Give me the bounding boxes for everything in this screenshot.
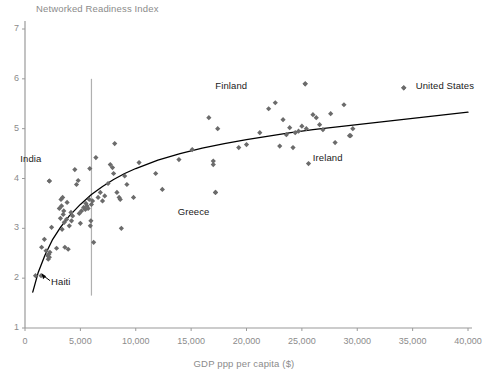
data-point-marker [88,223,93,228]
annotated-data-point-marker [303,81,308,86]
data-point-marker [136,160,141,165]
point-label-india: India [20,153,41,164]
data-point-marker [341,102,346,107]
data-point-marker [61,208,66,213]
data-point-marker [88,218,93,223]
data-point-marker [176,157,181,162]
data-point-marker [95,195,100,200]
annotated-data-point-marker [401,85,406,90]
x-axis-tick-label: 40,000 [438,336,488,346]
data-point-marker [49,225,54,230]
y-axis-tick-label: 7 [3,23,19,33]
trend-line [33,112,468,292]
y-axis-tick-label: 2 [3,272,19,282]
data-point-marker [111,171,116,176]
data-point-marker [102,193,107,198]
data-point-marker [236,145,241,150]
data-point-marker [131,195,136,200]
data-point-marker [328,111,333,116]
x-axis-tick-label: 10,000 [106,336,166,346]
data-point-marker [266,106,271,111]
data-point-marker [54,246,59,251]
x-axis-tick-label: 35,000 [383,336,443,346]
point-label-haiti: Haiti [51,276,71,287]
y-axis-tick-label: 1 [3,322,19,332]
data-point-marker [317,122,322,127]
point-label-finland: Finland [215,80,247,91]
annotated-data-point-marker [213,190,218,195]
data-point-marker [287,125,292,130]
data-point-marker [98,190,103,195]
data-point-marker [64,200,69,205]
scatter-plot-canvas [0,0,488,380]
data-point-marker [72,167,77,172]
annotated-data-point-marker [47,178,52,183]
data-point-marker [277,144,282,149]
data-point-marker [314,115,319,120]
data-point-marker [153,171,158,176]
data-point-marker [42,237,47,242]
x-axis-tick-label: 30,000 [327,336,387,346]
x-axis-tick-label: 25,000 [272,336,332,346]
data-point-marker [215,126,220,131]
data-point-marker [119,226,124,231]
data-point-marker [160,187,165,192]
data-point-marker [333,140,338,145]
data-point-marker [67,223,72,228]
data-point-marker [290,145,295,150]
data-point-marker [273,100,278,105]
x-axis-tick-label: 20,000 [217,336,277,346]
data-point-marker [78,221,83,226]
data-point-marker [350,126,355,131]
data-point-marker [100,198,105,203]
chart-container: Networked Readiness Index 1234567 05,000… [0,0,488,380]
x-axis-tick-label: 15,000 [161,336,221,346]
y-axis-tick-label: 6 [3,73,19,83]
y-axis-tick-label: 4 [3,173,19,183]
data-point-marker [114,190,119,195]
point-label-united-states: United States [416,80,474,91]
data-point-marker [257,130,262,135]
data-point-marker [211,162,216,167]
y-axis-tick-label: 5 [3,123,19,133]
data-point-marker [299,124,304,129]
x-axis-tick-label: 5,000 [50,336,110,346]
data-point-marker [280,117,285,122]
point-label-ireland: Ireland [313,152,343,163]
data-point-marker [69,218,74,223]
data-point-marker [93,155,98,160]
point-label-greece: Greece [178,206,210,217]
y-axis-tick-label: 3 [3,222,19,232]
x-axis-tick-label: 0 [0,336,55,346]
data-point-marker [244,142,249,147]
data-point-marker [206,115,211,120]
data-point-marker [306,161,311,166]
data-point-marker [39,245,44,250]
data-point-marker [112,141,117,146]
x-axis-title: GDP ppp per capita ($) [0,358,488,369]
data-point-marker [58,216,63,221]
data-point-marker [124,182,129,187]
data-point-marker [310,112,315,117]
